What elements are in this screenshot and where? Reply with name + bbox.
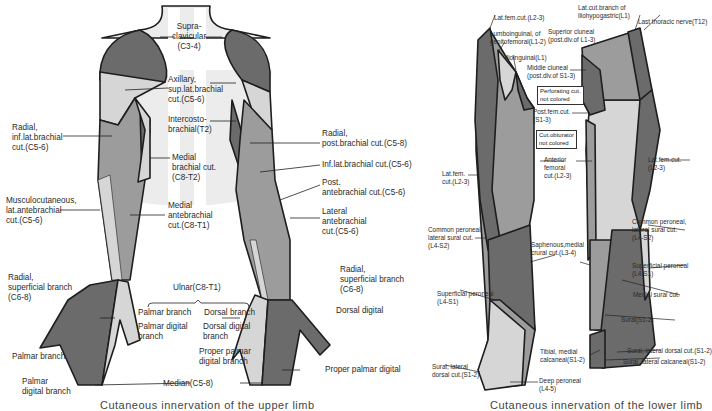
- label-axillary: Axillary, sup.lat.brachial cut.(C5-6): [168, 75, 223, 105]
- label-inf-lat-brachial: Inf.lat.brachial cut.(C5-6): [322, 160, 412, 170]
- label-proper-palmar-digital: Proper palmar digital: [325, 365, 401, 375]
- label-superficial-peroneal-left: Superficial peroneal (L4-S1): [437, 290, 494, 306]
- label-lateral-antebrachial: Lateral antebrachial cut.(C5-6): [322, 207, 367, 237]
- label-ulnar-dorsal-branch: Dorsal branch: [204, 308, 255, 318]
- label-radial-superficial-left: Radial, superficial branch (C6-8): [8, 273, 72, 303]
- label-ulnar-proper-palmar: Proper palmar digital branch: [199, 347, 251, 367]
- label-radial-post-brachial: Radial, post.brachial cut.(C5-8): [322, 129, 407, 149]
- label-last-thoracic: Last thoracic nerve(T12): [638, 18, 707, 26]
- label-sural-lateral-calcaneal: Sural, lateral calcaneal(S1-2): [623, 358, 705, 366]
- label-common-peroneal-left: Common peroneal, lateral sural cut. (L4-…: [428, 226, 482, 250]
- label-deep-peroneal: Deep peroneal (L4-5): [539, 377, 581, 393]
- label-post-antebrachial: Post. antebrachial cut.(C5-6): [322, 178, 405, 198]
- label-middle-cluneal: Middle cluneal (post.div.of S1-3): [527, 64, 575, 80]
- label-ulnar: Ulnar(C8-T1): [173, 283, 221, 293]
- label-sural-lateral-dorsal-right: Sural, lateral dorsal cut.(S1-2): [627, 347, 712, 355]
- label-ilioinguinal: Ilioinguinal(L1): [505, 54, 547, 62]
- posterior-medial-mid: [586, 120, 596, 260]
- label-medial-sural: Medial sural cut.: [633, 291, 680, 299]
- right-hand-dark: [262, 300, 330, 385]
- label-median: Median(C5-8): [163, 379, 213, 389]
- label-sural-lateral-dorsal-left: Sural, lateral dorsal cut.(S1-2): [432, 363, 479, 379]
- label-lat-fem-top: Lat.fem.cut.(L2-3): [494, 14, 544, 22]
- label-medial-antebrachial: Medial antebrachial cut.(C8-T1): [168, 201, 213, 231]
- label-median-palmar-digital: Palmar digital branch: [22, 377, 71, 397]
- label-ulnar-palmar-branch: Palmar branch: [138, 308, 191, 318]
- label-supraclavicular: Supra- clavicular (C3-4): [172, 22, 206, 52]
- label-superficial-peroneal-right: Superficial peroneal (L4-S1): [632, 262, 689, 278]
- label-intercostobrachial: Intercosto- brachial(T2): [168, 115, 212, 135]
- label-post-fem: Post.fem.cut. (S1-3): [533, 108, 570, 124]
- label-medial-brachial: Medial brachial cut. (C8-T2): [172, 153, 216, 183]
- caption-upper-limb: Cutaneous innervation of the upper limb: [100, 399, 315, 411]
- label-radial-superficial-right: Radial, superficial branch (C6-8): [340, 265, 404, 295]
- label-dorsal-digital: Dorsal digital: [336, 306, 383, 316]
- label-ulnar-palmar-digital: Palmar digital branch: [138, 322, 188, 342]
- label-common-peroneal-right: Common peroneal, lateral sural cut. (L4-…: [632, 218, 686, 242]
- right-arm-mid: [236, 100, 290, 300]
- label-ulnar-dorsal-digital: Dorsal digital branch: [203, 322, 250, 342]
- label-lumboinguinal: Lumboinguinal, of genitofemoral(L1-2): [490, 30, 546, 46]
- note-obturator: Cut.obturator not colored: [536, 130, 577, 149]
- label-median-palmar-branch: Palmar branch: [12, 352, 65, 362]
- label-musculocutaneous: Musculocutaneous, lat.antebrachial cut.(…: [6, 196, 77, 226]
- label-tibial-medial-calcaneal: Tibial, medial calcaneal(S1-2): [540, 348, 585, 364]
- label-lat-cut-iliohypogastric: Lat.cut.branch of iliohypogastric(L1): [578, 4, 630, 20]
- note-perforating: Perforating cut. not colored: [537, 86, 584, 105]
- label-radial-inf-lat-brachial: Radial, inf.lat.brachial cut.(C5-6): [12, 123, 63, 153]
- label-lat-fem-right: Lat.fem.cut. (L2-3): [648, 156, 681, 172]
- label-saphenous: Saphenous,medial crural cut.(L3-4): [531, 241, 584, 257]
- posterior-heel-dark: [590, 330, 605, 368]
- label-lat-fem-left: Lat.fem. cut.(L2-3): [442, 170, 469, 186]
- label-anterior-femoral: Anterior femoral cut.(L2-3): [544, 156, 571, 180]
- caption-lower-limb: Cutaneous innervation of the lower limb: [490, 399, 703, 411]
- lower-limb-diagram: [475, 28, 660, 390]
- label-sural: Sural(S1-2): [621, 316, 654, 324]
- label-superior-cluneal: Superior cluneal (post.div.of L1-3): [548, 28, 595, 44]
